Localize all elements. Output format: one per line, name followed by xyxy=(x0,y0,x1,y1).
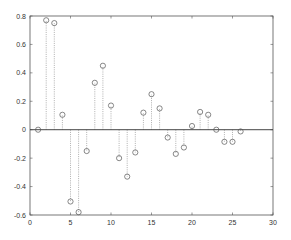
x-tick-label: 0 xyxy=(28,219,32,226)
stem-plot: 051015202530-0.6-0.4-0.200.20.40.60.8 xyxy=(0,0,291,240)
stem-plot-figure: 051015202530-0.6-0.4-0.200.20.40.60.8 xyxy=(0,0,291,240)
data-point-marker xyxy=(165,135,170,140)
x-tick-label: 20 xyxy=(188,219,196,226)
x-tick-label: 30 xyxy=(269,219,277,226)
x-tick-label: 15 xyxy=(148,219,156,226)
x-tick-label: 10 xyxy=(107,219,115,226)
data-point-marker xyxy=(230,139,235,144)
data-point-marker xyxy=(206,112,211,117)
data-point-marker xyxy=(76,210,81,215)
y-tick-label: 0.4 xyxy=(16,69,26,76)
axes-frame xyxy=(30,16,273,215)
y-tick-label: -0.4 xyxy=(14,183,26,190)
data-point-marker xyxy=(84,148,89,153)
axis-ticks: 051015202530-0.6-0.4-0.200.20.40.60.8 xyxy=(14,13,277,227)
y-tick-label: 0.8 xyxy=(16,13,26,20)
x-tick-label: 5 xyxy=(69,219,73,226)
data-point-marker xyxy=(52,21,57,26)
y-tick-label: -0.2 xyxy=(14,155,26,162)
axes-box xyxy=(30,16,273,215)
y-tick-label: -0.6 xyxy=(14,212,26,219)
data-point-marker xyxy=(44,18,49,23)
y-tick-label: 0.6 xyxy=(16,41,26,48)
y-tick-label: 0.2 xyxy=(16,98,26,105)
y-tick-label: 0 xyxy=(22,126,26,133)
x-tick-label: 25 xyxy=(229,219,237,226)
data-markers xyxy=(36,18,244,215)
data-point-marker xyxy=(222,139,227,144)
